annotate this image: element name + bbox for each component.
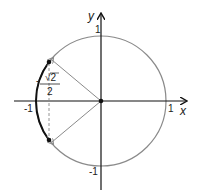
fraction-denominator: 2 [47,86,53,97]
fraction-sign: - [36,75,39,86]
x-axis-label: x [179,104,187,118]
diagram-canvas: y x 1 -1 1 -1 - √2 2 [0,0,199,195]
tick-x-pos: 1 [168,103,174,114]
fraction-numerator: √2 [45,72,56,83]
upper-point [47,60,52,65]
tick-y-pos: 1 [95,24,101,35]
y-axis-label: y [87,9,95,23]
tick-y-neg: -1 [89,166,98,177]
unit-circle-diagram: y x 1 -1 1 -1 - √2 2 [0,0,199,195]
lower-point [47,138,52,143]
radius-upper [52,60,101,101]
origin-point [99,99,104,104]
radius-lower [52,101,101,142]
tick-x-neg: -1 [24,103,33,114]
value-label-fraction: - √2 2 [36,72,60,97]
